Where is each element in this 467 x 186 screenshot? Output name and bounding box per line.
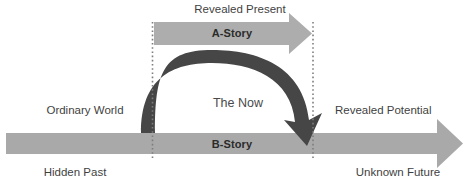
label-the-now: The Now (213, 97, 263, 110)
label-ordinary-world: Ordinary World (46, 104, 123, 117)
label-b-story: B-Story (212, 138, 252, 151)
label-revealed-present: Revealed Present (194, 3, 285, 16)
label-unknown-future: Unknown Future (356, 166, 440, 179)
label-hidden-past: Hidden Past (44, 166, 107, 179)
label-a-story: A-Story (212, 27, 252, 40)
label-revealed-potential: Revealed Potential (335, 104, 432, 117)
diagram-canvas: Revealed Present A-Story The Now Ordinar… (0, 0, 467, 186)
